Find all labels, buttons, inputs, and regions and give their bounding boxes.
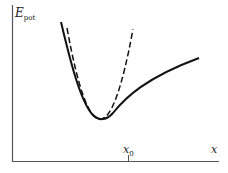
potential-curve [61,22,199,119]
y-axis-label: Epot [14,6,35,22]
potential-energy-diagram: Epot x0 x [0,0,228,173]
x0-tick-label: x0 [123,143,134,158]
x-axis-label: x [211,143,218,156]
harmonic-parabola-curve [67,28,133,119]
